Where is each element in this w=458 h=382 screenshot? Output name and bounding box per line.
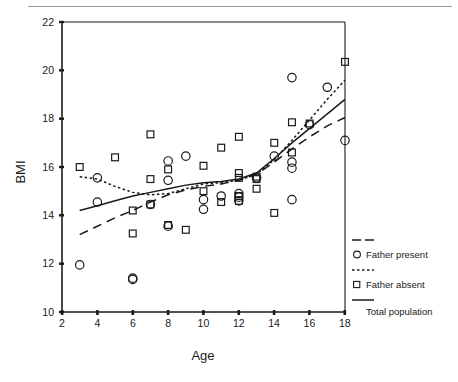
- data-point-circle: [288, 195, 296, 203]
- data-point-square: [271, 139, 278, 146]
- legend-label-father-absent: Father absent: [366, 279, 425, 290]
- x-tick-18: [344, 310, 347, 315]
- data-point-square: [147, 131, 154, 138]
- y-tick-label-14: 14: [42, 209, 54, 221]
- data-point-circle: [93, 174, 101, 182]
- x-tick-label-12: 12: [233, 317, 245, 329]
- data-point-circle: [164, 176, 172, 184]
- chart-figure: 22 20 18 16 14 12 10 2 4 6 8 10 12 14: [0, 0, 458, 382]
- fit-line-solid: [80, 99, 345, 210]
- x-tick-14: [273, 310, 276, 315]
- x-tick-label-18: 18: [339, 317, 351, 329]
- bmi-age-scatter-plot: 22 20 18 16 14 12 10 2 4 6 8 10 12 14: [0, 0, 458, 382]
- x-tick-6: [132, 310, 135, 315]
- x-tick-8: [167, 310, 170, 315]
- y-tick-12: [59, 263, 64, 265]
- fit-line-dashed: [80, 117, 345, 234]
- data-point-circle: [182, 152, 190, 160]
- data-point-circle: [323, 83, 331, 91]
- legend: Father present Father absent Total popul…: [352, 240, 433, 317]
- data-point-square: [112, 154, 119, 161]
- legend-label-father-present: Father present: [366, 249, 428, 260]
- y-axis-ticks: 22 20 18 16 14 12 10: [42, 16, 64, 318]
- data-point-square: [271, 210, 278, 217]
- legend-square-icon: [354, 281, 360, 287]
- data-point-square: [289, 119, 296, 126]
- x-tick-label-16: 16: [304, 317, 316, 329]
- y-tick-label-10: 10: [42, 306, 54, 318]
- y-tick-label-16: 16: [42, 161, 54, 173]
- data-point-square: [235, 133, 242, 140]
- x-tick-label-8: 8: [165, 317, 171, 329]
- data-point-square: [129, 207, 136, 214]
- x-tick-label-14: 14: [268, 317, 280, 329]
- x-tick-label-10: 10: [198, 317, 210, 329]
- y-tick-label-18: 18: [42, 112, 54, 124]
- y-axis-title: BMI: [13, 160, 28, 183]
- x-tick-label-6: 6: [130, 317, 136, 329]
- fit-lines-group: [80, 80, 345, 235]
- x-axis-ticks: 2 4 6 8 10 12 14 16 18: [59, 310, 351, 329]
- y-tick-label-20: 20: [42, 64, 54, 76]
- data-point-square: [218, 144, 225, 151]
- header-rule: [28, 6, 452, 7]
- y-tick-14: [59, 214, 64, 216]
- data-point-circle: [288, 164, 296, 172]
- data-point-square: [147, 176, 154, 183]
- legend-circle-icon: [354, 251, 361, 258]
- fit-line-dotted: [80, 80, 345, 195]
- data-point-square: [76, 164, 83, 171]
- x-axis-title: Age: [191, 348, 214, 363]
- x-tick-16: [308, 310, 311, 315]
- plot-frame: [62, 22, 345, 312]
- data-point-circle: [164, 157, 172, 165]
- data-point-square: [253, 185, 260, 192]
- x-tick-label-4: 4: [94, 317, 100, 329]
- data-point-square: [165, 166, 172, 173]
- x-tick-12: [238, 310, 241, 315]
- data-point-square: [235, 170, 242, 177]
- x-tick-4: [96, 310, 99, 315]
- data-point-square: [182, 226, 189, 233]
- data-markers-group: [75, 58, 349, 283]
- y-tick-label-22: 22: [42, 16, 54, 28]
- data-point-circle: [75, 261, 83, 269]
- y-tick-16: [59, 166, 64, 168]
- data-point-circle: [199, 195, 207, 203]
- data-point-circle: [288, 73, 296, 81]
- y-tick-22: [59, 21, 64, 23]
- x-tick-label-2: 2: [59, 317, 65, 329]
- data-point-circle: [199, 205, 207, 213]
- x-tick-2: [61, 310, 64, 315]
- data-point-square: [129, 230, 136, 237]
- data-point-square: [200, 188, 207, 195]
- y-tick-label-12: 12: [42, 257, 54, 269]
- x-tick-10: [202, 310, 205, 315]
- y-tick-20: [59, 69, 64, 71]
- data-point-square: [200, 162, 207, 169]
- legend-label-total-population: Total population: [366, 306, 433, 317]
- y-tick-18: [59, 118, 64, 120]
